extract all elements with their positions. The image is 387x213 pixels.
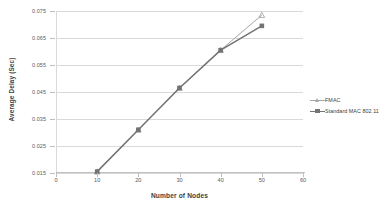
- x-axis-line: [56, 172, 305, 173]
- x-axis-title: Number of Nodes: [56, 192, 303, 199]
- x-axis-tick: [138, 173, 139, 177]
- gridline: [56, 146, 303, 147]
- x-axis-tick: [262, 173, 263, 177]
- y-axis-tick: [50, 146, 55, 147]
- gridline: [56, 119, 303, 120]
- gridline: [56, 65, 303, 66]
- y-axis-tick: [50, 65, 55, 66]
- legend-item-fmac[interactable]: FMAC: [310, 95, 387, 105]
- legend-label-standard-mac: Standard MAC 802.11: [325, 108, 379, 114]
- x-axis-tick: [180, 173, 181, 177]
- y-axis-tick-label: 0.015: [2, 170, 46, 176]
- legend-swatch-standard-mac: [310, 107, 325, 116]
- legend-label-fmac: FMAC: [325, 97, 340, 103]
- x-axis-tick: [97, 173, 98, 177]
- x-axis-tick: [56, 173, 57, 177]
- y-axis-tick: [50, 92, 55, 93]
- legend-item-standard-mac[interactable]: Standard MAC 802.11: [310, 106, 387, 116]
- x-axis-tick-label: 60: [288, 177, 318, 184]
- y-axis-title: Average Delay (Sec): [8, 25, 15, 155]
- x-axis-tick-label: 10: [82, 177, 112, 184]
- x-axis-tick-label: 30: [165, 177, 195, 184]
- x-axis-tick-label: 20: [123, 177, 153, 184]
- x-axis-tick-label: 40: [206, 177, 236, 184]
- y-axis-tick: [50, 38, 55, 39]
- x-axis-tick: [303, 173, 304, 177]
- square-marker-icon: [315, 109, 320, 114]
- plot-area: [56, 11, 303, 173]
- y-axis-line: [56, 11, 57, 173]
- triangle-marker-icon: [315, 98, 319, 102]
- y-axis-tick-label: 0.075: [2, 8, 46, 14]
- x-axis-tick-label: 0: [41, 177, 71, 184]
- gridline: [56, 38, 303, 39]
- y-axis-tick: [50, 119, 55, 120]
- chart-legend: FMAC Standard MAC 802.11: [310, 95, 387, 117]
- x-axis-tick-label: 50: [247, 177, 277, 184]
- legend-swatch-fmac: [310, 96, 325, 105]
- x-axis-tick: [221, 173, 222, 177]
- gridline: [56, 11, 303, 12]
- y-axis-tick: [50, 11, 55, 12]
- gridline: [56, 92, 303, 93]
- chart-figure: 0.0150.0250.0350.0450.0550.0650.075 0102…: [0, 0, 387, 213]
- y-axis-tick: [50, 173, 55, 174]
